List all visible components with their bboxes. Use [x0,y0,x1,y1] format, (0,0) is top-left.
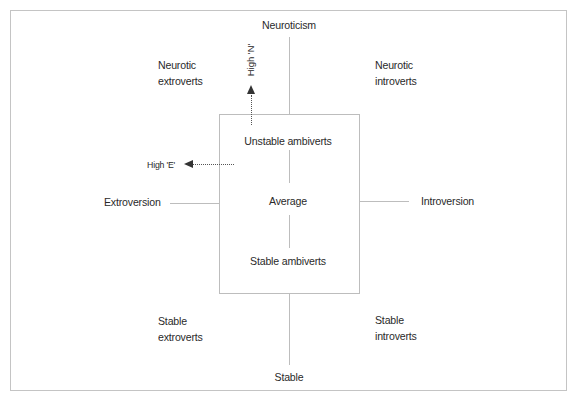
axis-label-introversion: Introversion [421,193,474,209]
quadrant-stable-extroverts-line1: Stable [158,313,187,329]
label-average: Average [269,193,307,209]
axis-label-neuroticism: Neuroticism [262,17,316,33]
quadrant-neurotic-introverts-line2: introverts [375,73,417,89]
neuroticism-axis-line [289,37,290,114]
high-n-dotted-line [251,95,252,125]
label-high-e: High 'E' [147,157,175,173]
label-stable-ambiverts: Stable ambiverts [250,253,326,269]
stable-axis-line [289,294,290,365]
quadrant-stable-extroverts-line2: extroverts [158,329,203,345]
quadrant-neurotic-introverts-line1: Neurotic [375,57,413,73]
quadrant-neurotic-extroverts-line1: Neurotic [158,57,196,73]
quadrant-neurotic-extroverts-line2: extroverts [158,73,203,89]
label-high-n: High 'N' [245,43,257,77]
axis-label-extroversion: Extroversion [104,194,161,210]
arrow-up-icon [247,85,255,94]
quadrant-stable-introverts-line2: introverts [375,328,417,344]
axis-label-stable: Stable [275,369,304,385]
extroversion-axis-line [170,203,219,204]
inner-line-lower [289,215,290,248]
high-e-dotted-line [193,164,234,165]
label-unstable-ambiverts: Unstable ambiverts [244,133,331,149]
quadrant-stable-introverts-line1: Stable [375,312,404,328]
arrow-left-icon [184,160,193,168]
introversion-axis-line [360,201,409,202]
inner-line-upper [289,150,290,183]
